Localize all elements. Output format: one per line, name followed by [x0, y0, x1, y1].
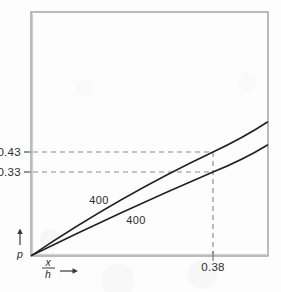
upper-curve-label: 400 — [89, 194, 108, 206]
x-axis-arrow-head — [73, 268, 79, 273]
x-axis-indicator: x h — [42, 256, 78, 280]
data-curves — [32, 122, 268, 256]
figure-root: p x h 0.43 0.33 0.38 400 400 — [0, 0, 281, 292]
y-tick-label-043: 0.43 — [0, 146, 21, 158]
x-tick-label-038: 0.38 — [201, 261, 225, 273]
y-axis-label: p — [16, 248, 23, 260]
frame-border — [31, 12, 268, 256]
leader-lines — [24, 152, 213, 254]
x-axis-denominator: h — [45, 268, 51, 280]
lower-curve — [32, 145, 268, 256]
chart-canvas: p x h 0.43 0.33 0.38 400 400 — [0, 0, 281, 292]
y-axis-indicator: p — [16, 229, 23, 261]
y-axis-arrow-head — [17, 229, 23, 235]
upper-curve — [32, 122, 268, 256]
lower-curve-label: 400 — [126, 214, 145, 226]
x-axis-numerator: x — [44, 256, 51, 268]
y-tick-label-033: 0.33 — [0, 166, 21, 178]
plot-frame — [31, 12, 268, 256]
